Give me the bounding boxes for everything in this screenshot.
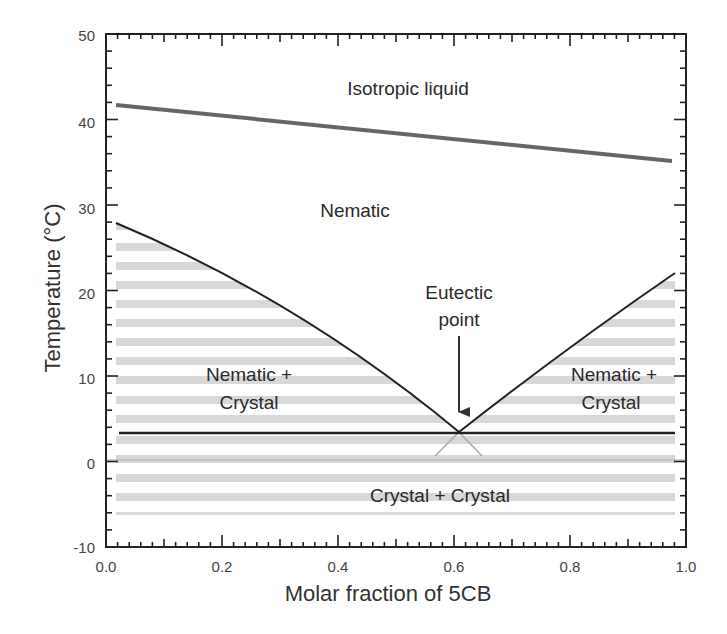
label-crystal-crystal: Crystal + Crystal: [370, 485, 510, 506]
x-tick-0.2: 0.2: [212, 558, 233, 575]
label-nematic-crystal-right-1: Nematic +: [571, 364, 657, 385]
y-tick-30: 30: [78, 200, 95, 217]
label-eutectic-2: point: [438, 309, 480, 330]
y-tick-10: 10: [78, 370, 95, 387]
label-nematic-crystal-right-2: Crystal: [581, 392, 640, 413]
x-tick-1.0: 1.0: [676, 558, 697, 575]
y-tick-50: 50: [78, 27, 95, 44]
y-tick-labels: 50 40 30 20 10 0 -10: [73, 27, 95, 556]
ni-transition-line: [116, 105, 672, 161]
label-isotropic-liquid: Isotropic liquid: [347, 78, 468, 99]
x-axis-title: Molar fraction of 5CB: [285, 581, 492, 606]
x-tick-0.0: 0.0: [96, 558, 117, 575]
label-nematic: Nematic: [320, 200, 390, 221]
y-tick-neg10: -10: [73, 539, 95, 556]
y-axis-title: Temperature (°C): [40, 204, 65, 373]
label-eutectic-1: Eutectic: [425, 282, 493, 303]
x-tick-0.6: 0.6: [444, 558, 465, 575]
label-nematic-crystal-left-1: Nematic +: [206, 364, 292, 385]
y-tick-0: 0: [87, 455, 95, 472]
phase-diagram: 50 40 30 20 10 0 -10 0.0 0.2 0.4 0.6 0.8…: [0, 0, 727, 634]
y-tick-40: 40: [78, 114, 95, 131]
x-tick-0.4: 0.4: [328, 558, 349, 575]
label-nematic-crystal-left-2: Crystal: [219, 392, 278, 413]
y-tick-20: 20: [78, 285, 95, 302]
x-tick-labels: 0.0 0.2 0.4 0.6 0.8 1.0: [96, 558, 697, 575]
x-tick-0.8: 0.8: [560, 558, 581, 575]
